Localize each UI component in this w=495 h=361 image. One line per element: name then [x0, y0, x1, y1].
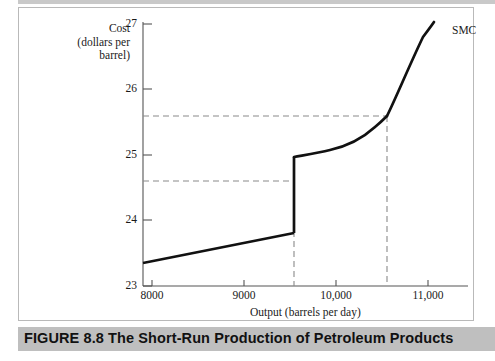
figure-caption-text: FIGURE 8.8 The Short-Run Production of P…	[24, 330, 453, 346]
x-tick-label-10000: 10,000	[301, 289, 371, 301]
caption-bottom-spacer	[0, 351, 495, 361]
y-tick-marks	[143, 24, 152, 286]
y-axis-label-line-3: barrel)	[40, 49, 130, 63]
x-tick-label-11000: 11,000	[393, 289, 463, 301]
y-tick-label-24: 24	[115, 213, 137, 225]
x-axis-label: Output (barrels per day)	[250, 306, 450, 318]
y-axis-label-line-2: (dollars per	[40, 36, 130, 50]
smc-curve-lower-segment	[143, 233, 294, 263]
smc-curve-steep-tail	[387, 22, 434, 116]
chart-area: Cost (dollars per barrel) 27 26 25 24 23…	[0, 0, 495, 361]
smc-series-label: SMC	[452, 24, 476, 36]
x-tick-label-9000: 9000	[209, 289, 279, 301]
smc-curve-middle	[294, 116, 387, 157]
y-tick-label-25: 25	[115, 148, 137, 160]
y-tick-label-27: 27	[115, 17, 137, 29]
x-tick-label-8000: 8000	[117, 289, 187, 301]
figure-page: Cost (dollars per barrel) 27 26 25 24 23…	[0, 0, 495, 361]
y-tick-label-26: 26	[115, 82, 137, 94]
